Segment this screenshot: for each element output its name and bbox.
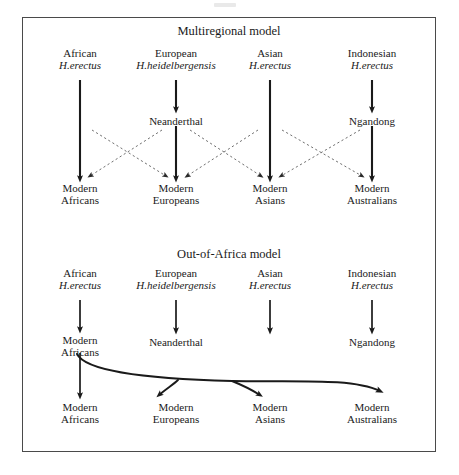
node-line2: Europeans [153,194,199,206]
node-line1: Modern [61,401,99,413]
node-region-label: Asian [249,267,291,279]
node-modern-africans-multiregional: Modern Africans [61,182,99,207]
node-species-label: H.erectus [59,59,101,71]
node-label-text: Neanderthal [149,115,203,127]
node-line1: Modern [253,401,288,413]
node-ngandong-outofafrica: Ngandong [349,336,395,348]
node-species-label: H.erectus [348,279,396,291]
node-african-erectus-multiregional: African H.erectus [59,47,101,72]
node-species-label: H.heidelbergensis [136,279,215,291]
node-indonesian-erectus-multiregional: Indonesian H.erectus [348,47,396,72]
node-line1: Modern [153,182,199,194]
node-species-label: H.erectus [249,279,291,291]
node-species-label: H.erectus [249,59,291,71]
node-modern-asians-outofafrica: Modern Asians [253,401,288,426]
node-line2: Europeans [153,413,199,425]
panel-title-out-of-africa: Out-of-Africa model [177,247,281,262]
node-neanderthal-multiregional: Neanderthal [149,115,203,127]
node-indonesian-erectus-outofafrica: Indonesian H.erectus [348,267,396,292]
node-line2: Asians [253,413,288,425]
node-line2: Australians [347,413,397,425]
node-modern-australians-outofafrica: Modern Australians [347,401,397,426]
node-region-label: African [59,267,101,279]
node-species-label: H.erectus [59,279,101,291]
node-line1: Modern [347,401,397,413]
node-modern-africans-outofafrica: Modern Africans [61,401,99,426]
node-modern-europeans-outofafrica: Modern Europeans [153,401,199,426]
node-modern-australians-multiregional: Modern Australians [347,182,397,207]
node-region-label: Indonesian [348,267,396,279]
node-species-label: H.heidelbergensis [136,59,215,71]
node-line2: Africans [61,194,99,206]
node-asian-erectus-multiregional: Asian H.erectus [249,47,291,72]
node-species-label: H.erectus [348,59,396,71]
node-ngandong-multiregional: Ngandong [349,115,395,127]
node-line1: Modern [153,401,199,413]
node-label-text: Neanderthal [149,336,203,348]
node-region-label: Indonesian [348,47,396,59]
node-line1: Modern [253,182,288,194]
node-european-heidelbergensis-outofafrica: European H.heidelbergensis [136,267,215,292]
node-line2: Asians [253,194,288,206]
node-modern-europeans-multiregional: Modern Europeans [153,182,199,207]
node-asian-erectus-outofafrica: Asian H.erectus [249,267,291,292]
node-region-label: European [136,267,215,279]
node-region-label: European [136,47,215,59]
node-line1: Modern [61,182,99,194]
node-label-text: Ngandong [349,115,395,127]
node-european-heidelbergensis-multiregional: European H.heidelbergensis [136,47,215,72]
scan-artifact [214,3,236,7]
node-neanderthal-outofafrica: Neanderthal [149,336,203,348]
figure-root: Multiregional model African H.erectus Eu… [0,0,459,475]
node-line2: Africans [61,413,99,425]
node-african-erectus-outofafrica: African H.erectus [59,267,101,292]
node-line1: Modern [347,182,397,194]
node-line2: Africans [61,346,99,358]
node-region-label: African [59,47,101,59]
node-line2: Australians [347,194,397,206]
node-label-text: Ngandong [349,336,395,348]
figure-border [22,17,436,452]
node-modern-africans-mid-outofafrica: Modern Africans [61,334,99,359]
node-line1: Modern [61,334,99,346]
node-modern-asians-multiregional: Modern Asians [253,182,288,207]
panel-title-multiregional: Multiregional model [177,24,280,39]
node-region-label: Asian [249,47,291,59]
